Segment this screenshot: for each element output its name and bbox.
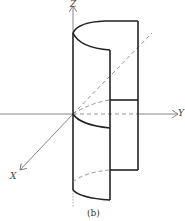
x-axis xyxy=(20,114,73,170)
dashed-curve-upper xyxy=(73,100,110,114)
half-cylinder xyxy=(73,21,138,200)
diagram-canvas xyxy=(0,0,185,221)
x-axis-label: X xyxy=(10,172,16,181)
y-axis-label: Y xyxy=(178,109,184,118)
figure-caption: (b) xyxy=(87,209,100,218)
dashed-curve-lower xyxy=(73,170,110,182)
z-axis-label: Z xyxy=(70,0,76,9)
